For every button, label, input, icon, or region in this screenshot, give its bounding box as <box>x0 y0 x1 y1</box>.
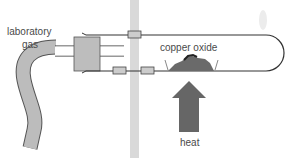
label-gas-line2: gas <box>22 39 38 50</box>
label-copper-oxide: copper oxide <box>160 42 217 53</box>
stand-rod <box>130 0 139 158</box>
clamp-lower-right <box>141 67 154 74</box>
gas-flame <box>259 10 267 30</box>
stopper <box>74 37 100 71</box>
apparatus-diagram <box>0 0 289 158</box>
clamp-top <box>128 31 141 38</box>
copper-oxide-sample <box>168 56 214 71</box>
heat-arrow <box>172 81 206 132</box>
clamp-lower-left <box>113 67 126 74</box>
label-gas-line1: laboratory <box>7 26 51 37</box>
label-heat: heat <box>180 137 199 148</box>
